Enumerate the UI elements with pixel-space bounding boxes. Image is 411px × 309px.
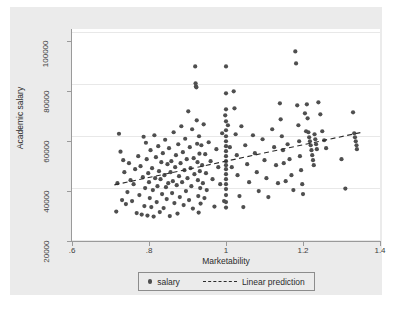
x-axis-tick-label: 1.4 <box>374 246 385 255</box>
y-axis-tick-label: 40000 <box>42 191 51 213</box>
legend-label-linear-prediction: Linear prediction <box>242 277 305 287</box>
graph-region: 20000400006000080000100000 .6.811.21.4 A… <box>10 7 382 295</box>
y-axis-tick <box>67 191 72 192</box>
y-axis-tick-label: 80000 <box>42 91 51 113</box>
legend-entry-linear-prediction: Linear prediction <box>203 277 305 287</box>
y-axis-tick-label: 100000 <box>42 41 51 68</box>
x-axis-title: Marketability <box>71 256 381 266</box>
legend-entry-salary: salary <box>148 277 180 287</box>
legend: salary Linear prediction <box>138 272 315 291</box>
x-axis-tick-label: .6 <box>69 246 76 255</box>
legend-marker-dot-icon <box>148 279 152 283</box>
y-axis-line <box>71 29 72 242</box>
x-axis-tick-label: 1.2 <box>297 246 308 255</box>
stata-scatter-figure: 20000400006000080000100000 .6.811.21.4 A… <box>0 0 411 309</box>
plot-region <box>72 29 380 241</box>
y-axis-tick <box>67 41 72 42</box>
y-axis-tick-label: 60000 <box>42 141 51 163</box>
y-axis-tick <box>67 141 72 142</box>
y-axis-tick-label: 20000 <box>42 241 51 263</box>
legend-dashed-line-icon <box>203 281 237 282</box>
y-axis-tick <box>67 91 72 92</box>
x-axis-tick-label: .8 <box>146 246 153 255</box>
regression-line <box>72 29 380 241</box>
x-axis-tick-label: 1 <box>224 246 228 255</box>
linear-prediction-line <box>114 133 360 185</box>
y-axis-title: Academic salary <box>15 78 25 158</box>
legend-label-salary: salary <box>157 277 180 287</box>
